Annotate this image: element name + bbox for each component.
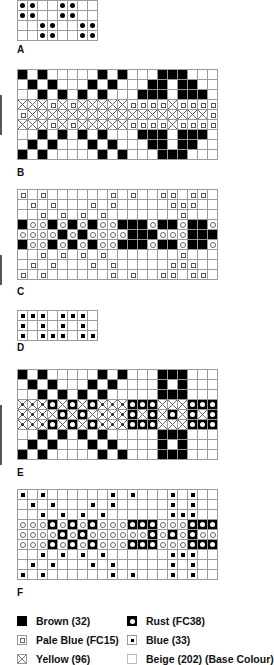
grid-cell bbox=[18, 440, 28, 450]
grid-cell bbox=[198, 520, 208, 530]
grid-cell bbox=[128, 370, 138, 380]
grid-cell bbox=[88, 110, 98, 120]
grid-cell bbox=[88, 11, 98, 21]
grid-cell bbox=[78, 370, 88, 380]
grid-cell bbox=[208, 530, 218, 540]
grid-cell bbox=[178, 250, 188, 260]
grid-cell bbox=[188, 530, 198, 540]
grid-cell bbox=[108, 100, 118, 110]
grid-cell bbox=[78, 210, 88, 220]
grid-cell bbox=[88, 21, 98, 31]
grid-cell bbox=[168, 210, 178, 220]
grid-cell bbox=[28, 420, 38, 430]
grid-cell bbox=[168, 230, 178, 240]
grid-cell bbox=[38, 560, 48, 570]
grid-cell bbox=[158, 260, 168, 270]
grid-cell bbox=[38, 370, 48, 380]
grid-cell bbox=[28, 490, 38, 500]
grid-cell bbox=[158, 250, 168, 260]
grid-cell bbox=[208, 110, 218, 120]
grid-cell bbox=[138, 110, 148, 120]
chart-grid bbox=[17, 489, 218, 580]
grid-cell bbox=[58, 311, 68, 321]
grid-cell bbox=[68, 200, 78, 210]
grid-cell bbox=[198, 100, 208, 110]
grid-cell bbox=[18, 400, 28, 410]
grid-cell bbox=[188, 220, 198, 230]
grid-cell bbox=[98, 540, 108, 550]
grid-cell bbox=[88, 230, 98, 240]
grid-cell bbox=[208, 570, 218, 580]
grid-cell bbox=[108, 390, 118, 400]
grid-cell bbox=[118, 570, 128, 580]
grid-cell bbox=[68, 370, 78, 380]
grid-cell bbox=[208, 140, 218, 150]
grid-cell bbox=[78, 70, 88, 80]
grid-cell bbox=[88, 331, 98, 341]
grid-cell bbox=[18, 190, 28, 200]
grid-cell bbox=[158, 440, 168, 450]
grid-cell bbox=[188, 150, 198, 160]
grid-cell bbox=[98, 380, 108, 390]
grid-cell bbox=[178, 240, 188, 250]
grid-cell bbox=[198, 400, 208, 410]
grid-cell bbox=[78, 130, 88, 140]
grid-cell bbox=[198, 210, 208, 220]
grid-cell bbox=[18, 70, 28, 80]
grid-cell bbox=[68, 190, 78, 200]
chart-c bbox=[17, 189, 218, 280]
grid-cell bbox=[198, 120, 208, 130]
legend-label: Yellow (96) bbox=[36, 653, 90, 665]
grid-cell bbox=[128, 380, 138, 390]
grid-cell bbox=[198, 540, 208, 550]
grid-cell bbox=[58, 490, 68, 500]
grid-cell bbox=[38, 270, 48, 280]
grid-cell bbox=[168, 110, 178, 120]
grid-cell bbox=[168, 520, 178, 530]
grid-cell bbox=[208, 490, 218, 500]
grid-cell bbox=[178, 420, 188, 430]
grid-cell bbox=[88, 410, 98, 420]
grid-cell bbox=[178, 510, 188, 520]
grid-cell bbox=[48, 510, 58, 520]
grid-cell bbox=[198, 220, 208, 230]
grid-cell bbox=[158, 380, 168, 390]
grid-cell bbox=[128, 490, 138, 500]
grid-cell bbox=[68, 311, 78, 321]
grid-cell bbox=[28, 370, 38, 380]
chart-label: C bbox=[17, 286, 24, 297]
grid-cell bbox=[58, 420, 68, 430]
grid-cell bbox=[58, 220, 68, 230]
grid-cell bbox=[208, 200, 218, 210]
grid-cell bbox=[158, 130, 168, 140]
grid-cell bbox=[168, 560, 178, 570]
grid-cell bbox=[118, 370, 128, 380]
grid-cell bbox=[178, 440, 188, 450]
grid-cell bbox=[148, 100, 158, 110]
grid-cell bbox=[28, 570, 38, 580]
grid-cell bbox=[18, 1, 28, 11]
grid-cell bbox=[168, 440, 178, 450]
legend-label: Rust (FC38) bbox=[146, 615, 205, 627]
grid-cell bbox=[68, 410, 78, 420]
grid-cell bbox=[98, 530, 108, 540]
grid-cell bbox=[38, 540, 48, 550]
grid-cell bbox=[188, 560, 198, 570]
grid-cell bbox=[48, 540, 58, 550]
grid-cell bbox=[38, 31, 48, 41]
grid-cell bbox=[28, 321, 38, 331]
grid-cell bbox=[148, 130, 158, 140]
grid-cell bbox=[18, 550, 28, 560]
grid-cell bbox=[178, 190, 188, 200]
grid-cell bbox=[48, 250, 58, 260]
chart-grid bbox=[17, 0, 98, 41]
grid-cell bbox=[138, 410, 148, 420]
grid-cell bbox=[198, 260, 208, 270]
grid-cell bbox=[38, 80, 48, 90]
legend-label: Brown (32) bbox=[36, 615, 90, 627]
grid-cell bbox=[128, 510, 138, 520]
grid-cell bbox=[138, 380, 148, 390]
grid-cell bbox=[68, 520, 78, 530]
grid-cell bbox=[48, 200, 58, 210]
grid-cell bbox=[128, 560, 138, 570]
